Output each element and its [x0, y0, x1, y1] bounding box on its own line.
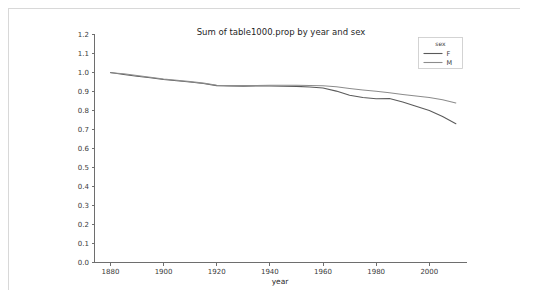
x-tick-label: 1980 — [367, 268, 385, 276]
y-tick-label: 0.3 — [78, 202, 89, 210]
y-tick-label: 0.7 — [78, 126, 89, 134]
y-tick-label: 0.6 — [78, 145, 90, 153]
figure-card: Sum of table1000.prop by year and sex 0.… — [8, 8, 520, 290]
chart-figure: Sum of table1000.prop by year and sex 0.… — [9, 9, 521, 291]
x-tick-label: 1940 — [261, 268, 279, 276]
chart-legend[interactable]: sexFM — [419, 38, 463, 69]
y-tick-label: 0.9 — [78, 88, 89, 96]
y-tick-label: 0.1 — [78, 240, 89, 248]
x-tick-label: 1900 — [155, 268, 173, 276]
x-tick-label: 1960 — [314, 268, 332, 276]
y-tick-label: 0.0 — [78, 259, 89, 267]
x-tick-label: 2000 — [420, 268, 438, 276]
y-tick-label: 0.8 — [78, 107, 89, 115]
y-tick-label: 0.4 — [78, 183, 90, 191]
y-tick-label: 0.2 — [78, 221, 89, 229]
legend-label-F[interactable]: F — [447, 50, 451, 58]
legend-title: sex — [435, 40, 446, 47]
y-tick-label: 0.5 — [78, 164, 89, 172]
x-tick-label: 1920 — [208, 268, 226, 276]
x-axis-title: year — [272, 277, 290, 286]
chart-title: Sum of table1000.prop by year and sex — [197, 27, 366, 37]
legend-label-M[interactable]: M — [447, 59, 453, 67]
y-tick-label: 1.1 — [78, 50, 89, 58]
y-tick-label: 1.2 — [78, 31, 89, 39]
y-tick-label: 1.0 — [78, 69, 89, 77]
x-tick-label: 1880 — [102, 268, 120, 276]
line-chart[interactable]: Sum of table1000.prop by year and sex 0.… — [9, 9, 521, 291]
